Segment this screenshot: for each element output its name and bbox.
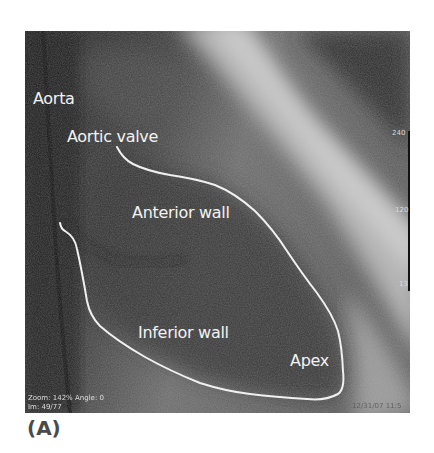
lv-outline-tracing (25, 31, 410, 413)
label-anterior-wall: Anterior wall (132, 205, 230, 221)
angiogram-image: Aorta Aortic valve Anterior wall Inferio… (25, 31, 410, 413)
label-apex: Apex (290, 353, 329, 369)
overlay-zoom-angle: Zoom: 142% Angle: 0 (28, 395, 104, 402)
scale-label-bottom: 13 (399, 281, 408, 288)
label-inferior-wall: Inferior wall (138, 325, 229, 341)
label-aorta: Aorta (33, 91, 75, 107)
overlay-date-time: 12/31/07 11:5 (352, 403, 401, 410)
scale-label-middle: 120 (395, 207, 408, 214)
label-aortic-valve: Aortic valve (67, 129, 158, 145)
overlay-image-index: Im: 49/77 (28, 404, 62, 411)
scale-label-top: 240 (392, 130, 405, 137)
panel-label: (A) (27, 418, 61, 438)
